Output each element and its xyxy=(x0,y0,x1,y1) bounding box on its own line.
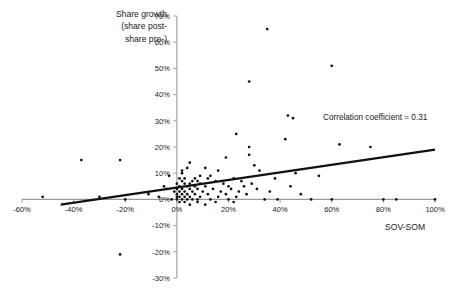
data-point xyxy=(268,190,271,193)
y-tick-label: 70% xyxy=(155,12,170,21)
data-point xyxy=(248,154,251,157)
plot-area: -60%-40%-20%0%20%40%60%80%100%-30%-20%-1… xyxy=(0,0,459,293)
data-point xyxy=(80,159,83,162)
x-axis-title: SOV-SOM xyxy=(385,222,425,232)
data-point xyxy=(237,190,240,193)
data-point xyxy=(181,172,184,175)
data-point xyxy=(196,180,199,183)
data-point xyxy=(199,174,202,177)
data-point xyxy=(178,201,181,204)
correlation-annotation: Correlation coefficient = 0.31 xyxy=(323,113,427,122)
data-point xyxy=(181,193,184,196)
data-point xyxy=(176,188,179,191)
data-point xyxy=(176,182,179,185)
data-point xyxy=(157,195,160,198)
data-point xyxy=(287,114,290,117)
data-point xyxy=(163,185,166,188)
data-point xyxy=(369,146,372,149)
data-point xyxy=(227,198,230,201)
data-point xyxy=(217,195,220,198)
data-points-group xyxy=(41,28,436,256)
annotation-marker xyxy=(292,117,295,120)
data-point xyxy=(183,190,186,193)
data-point xyxy=(299,193,302,196)
data-point xyxy=(230,188,233,191)
trendline xyxy=(61,150,435,205)
data-point xyxy=(212,188,215,191)
data-point xyxy=(207,177,210,180)
data-point xyxy=(119,159,122,162)
data-point xyxy=(207,193,210,196)
x-tick-label: -60% xyxy=(13,205,31,214)
y-tick-label: 10% xyxy=(155,169,170,178)
data-point xyxy=(178,177,181,180)
data-point xyxy=(119,253,122,256)
data-point xyxy=(243,185,246,188)
data-point xyxy=(181,198,184,201)
data-point xyxy=(294,172,297,175)
data-point xyxy=(227,185,230,188)
data-point xyxy=(191,198,194,201)
x-tick-label: 60% xyxy=(324,205,339,214)
data-point xyxy=(186,193,189,196)
data-point xyxy=(201,190,204,193)
data-point xyxy=(194,193,197,196)
data-point xyxy=(209,198,212,201)
data-point xyxy=(284,138,287,141)
data-point xyxy=(183,201,186,204)
x-tick-label: 0% xyxy=(171,205,182,214)
data-point xyxy=(217,169,220,172)
data-point xyxy=(263,198,266,201)
data-point xyxy=(41,195,44,198)
data-point xyxy=(232,201,235,204)
data-point xyxy=(338,143,341,146)
data-point xyxy=(256,188,259,191)
x-tick-label: -40% xyxy=(65,205,83,214)
data-point xyxy=(232,177,235,180)
data-point xyxy=(196,188,199,191)
data-point xyxy=(317,174,320,177)
data-point xyxy=(209,174,212,177)
data-point xyxy=(183,195,186,198)
y-tick-label: 20% xyxy=(155,143,170,152)
data-point xyxy=(186,185,189,188)
y-tick-label: 30% xyxy=(155,117,170,126)
x-tick-label: -20% xyxy=(116,205,134,214)
data-point xyxy=(222,182,225,185)
data-point xyxy=(186,198,189,201)
data-point xyxy=(276,198,279,201)
data-point xyxy=(194,177,197,180)
data-point xyxy=(168,174,171,177)
trend-line xyxy=(61,150,435,205)
data-point xyxy=(165,188,168,191)
data-point xyxy=(181,180,184,183)
data-point xyxy=(274,177,277,180)
y-tick-label: 50% xyxy=(155,64,170,73)
data-point xyxy=(199,195,202,198)
y-tick-label: -10% xyxy=(152,221,170,230)
data-point xyxy=(235,195,238,198)
data-point xyxy=(178,195,181,198)
data-point xyxy=(196,201,199,204)
data-point xyxy=(240,180,243,183)
data-point xyxy=(181,188,184,191)
data-point xyxy=(204,167,207,170)
data-point xyxy=(178,190,181,193)
data-point xyxy=(382,198,385,201)
data-point xyxy=(250,182,253,185)
data-point xyxy=(188,203,191,206)
y-tick-label: -20% xyxy=(152,248,170,257)
data-point xyxy=(289,185,292,188)
data-point xyxy=(248,80,251,83)
data-point xyxy=(176,198,179,201)
x-tick-label: 20% xyxy=(221,205,236,214)
data-point xyxy=(266,28,269,31)
annotation-markers xyxy=(292,117,295,120)
data-point xyxy=(214,201,217,204)
y-tick-label: 0% xyxy=(159,195,170,204)
data-point xyxy=(147,193,150,196)
y-tick-label: -30% xyxy=(152,274,170,283)
data-point xyxy=(330,64,333,67)
data-point xyxy=(245,193,248,196)
data-point xyxy=(176,195,179,198)
